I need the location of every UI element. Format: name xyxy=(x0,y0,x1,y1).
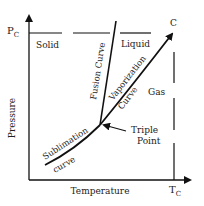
critical-point-label: C xyxy=(170,18,177,28)
critical-temperature-label: TC xyxy=(169,184,181,198)
solid-region-label: Solid xyxy=(36,40,59,50)
sublimation-curve-label-2: curve xyxy=(51,154,77,175)
triple-point-pointer xyxy=(104,125,126,131)
x-axis-label: Temperature xyxy=(71,186,130,196)
gas-region-label: Gas xyxy=(148,87,166,97)
critical-pressure-label: PC xyxy=(7,25,19,39)
triple-point-label: Triple xyxy=(131,125,158,135)
fusion-curve-label: Fusion Curve xyxy=(88,42,107,100)
liquid-region-label: Liquid xyxy=(121,39,150,49)
triple-point-label-2: Point xyxy=(137,136,161,146)
phase-diagram: PC TC Pressure Temperature Solid Liquid … xyxy=(0,0,204,206)
sublimation-curve-label: Sublimation xyxy=(41,125,91,162)
y-axis-label: Pressure xyxy=(7,98,17,138)
